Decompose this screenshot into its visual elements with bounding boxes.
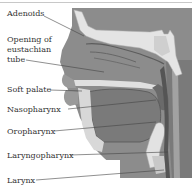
label-laryngopharynx: Laryngopharynx (7, 151, 74, 160)
label-oropharynx: Oropharynx (7, 127, 55, 136)
label-adenoids: Adenoids (7, 9, 44, 18)
label-eustachian-tube: Opening of eustachian tube (7, 35, 57, 65)
label-nasopharynx: Nasopharynx (7, 105, 61, 114)
pharynx-illustration (0, 0, 192, 189)
label-larynx: Larynx (7, 176, 35, 185)
label-soft-palate: Soft palate (7, 85, 51, 94)
